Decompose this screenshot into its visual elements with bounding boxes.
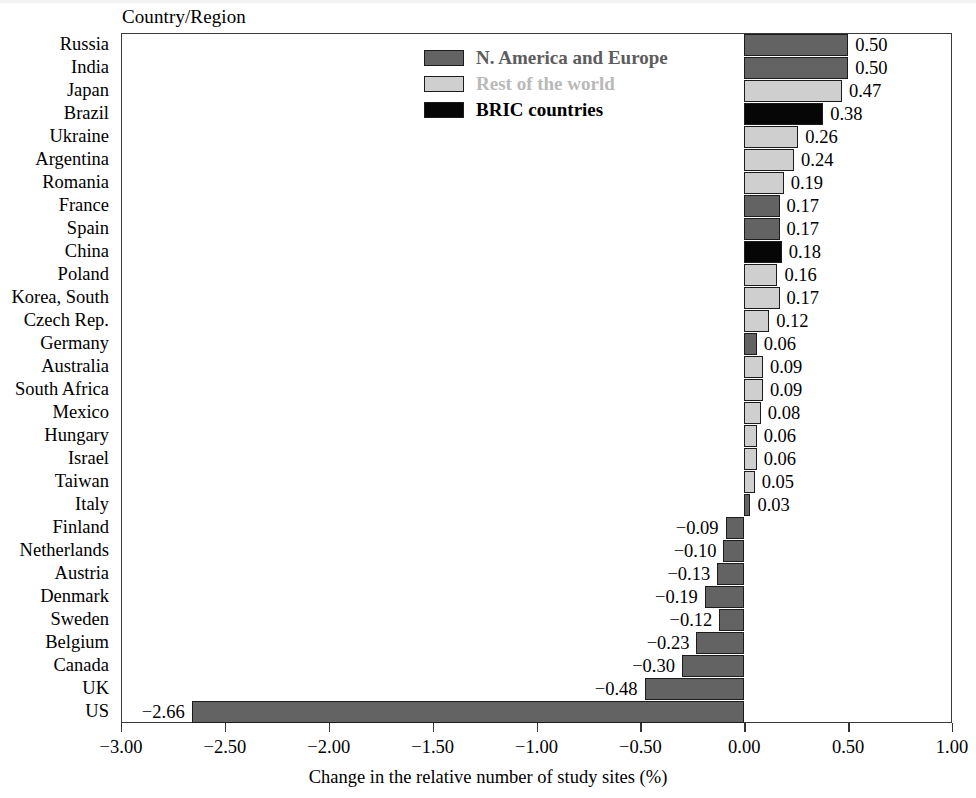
legend-item: N. America and Europe [424,45,724,71]
category-label: Italy [0,494,115,514]
x-tick-mark [952,723,953,732]
category-label: US [0,701,115,721]
legend-label: Rest of the world [476,73,615,95]
category-label: Denmark [0,586,115,606]
x-tick-mark [433,723,434,732]
category-label: France [0,195,115,215]
bar-row: 0.12 [121,309,952,332]
bar [744,448,756,470]
column-header-label: Country/Region [122,6,246,28]
bar [744,241,781,263]
bar-row: 0.19 [121,171,952,194]
bar-value-label: −0.48 [595,678,638,700]
bar-row: 0.06 [121,332,952,355]
legend-swatch-light [424,76,464,92]
category-label: Poland [0,264,115,284]
bar-row: −0.12 [121,608,952,631]
category-label: Mexico [0,402,115,422]
x-tick-label: −1.00 [515,736,558,758]
bar-value-label: −0.23 [647,632,690,654]
bar-row: 0.16 [121,263,952,286]
bar-value-label: 0.17 [787,218,819,240]
bar-value-label: 0.18 [789,241,821,263]
x-tick-mark [225,723,226,732]
bar-value-label: −0.19 [655,586,698,608]
bar-value-label: −0.12 [670,609,713,631]
category-label: Romania [0,172,115,192]
bar [744,310,769,332]
x-tick-label: 0.00 [728,736,760,758]
category-label: Argentina [0,149,115,169]
x-tick-label: 1.00 [936,736,968,758]
x-tick-label: 0.50 [832,736,864,758]
bar [726,517,745,539]
x-tick-label: −3.00 [100,736,143,758]
category-label: Netherlands [0,540,115,560]
bar [744,195,779,217]
category-label: Russia [0,34,115,54]
x-tick-mark [329,723,330,732]
bar-row: 0.26 [121,125,952,148]
bar-row: 0.18 [121,240,952,263]
bar-row: 0.03 [121,493,952,516]
x-tick-mark [744,723,745,732]
x-tick-mark [848,723,849,732]
bar [744,103,823,125]
bar [696,632,744,654]
bar [717,563,744,585]
bar-value-label: 0.06 [764,448,796,470]
bar-value-label: 0.12 [776,310,808,332]
chart-legend: N. America and EuropeRest of the worldBR… [424,45,724,123]
bar [744,494,750,516]
bar-row: −0.48 [121,677,952,700]
bar [645,678,745,700]
bar [744,149,794,171]
bar [719,609,744,631]
legend-swatch-black [424,102,464,118]
x-tick-label: −2.00 [307,736,350,758]
bar-row: −0.19 [121,585,952,608]
x-tick-mark [640,723,641,732]
category-label: Sweden [0,609,115,629]
bar-row: 0.08 [121,401,952,424]
legend-label: BRIC countries [476,99,603,121]
bar-row: 0.06 [121,424,952,447]
bar [744,172,783,194]
bar [744,402,761,424]
bar-value-label: 0.09 [770,379,802,401]
bar [192,701,745,723]
bar-row: 0.09 [121,378,952,401]
category-label: UK [0,678,115,698]
bar-value-label: 0.47 [849,80,881,102]
bar-row: 0.17 [121,217,952,240]
bar-value-label: −0.10 [674,540,717,562]
bar [723,540,744,562]
bar [682,655,744,677]
bar-row: 0.17 [121,194,952,217]
category-label: Australia [0,356,115,376]
scan-edge-tint [0,0,976,3]
category-label: Ukraine [0,126,115,146]
bar [744,471,754,493]
bar-row: −0.23 [121,631,952,654]
bar-value-label: 0.06 [764,333,796,355]
category-label: Belgium [0,632,115,652]
bar-row: −2.66 [121,700,952,723]
bar [744,80,842,102]
bar [744,264,777,286]
category-label: Korea, South [0,287,115,307]
bar-row: 0.09 [121,355,952,378]
category-label: Czech Rep. [0,310,115,330]
category-label: Brazil [0,103,115,123]
x-tick-label: −0.50 [619,736,662,758]
bar [744,218,779,240]
bar-value-label: −2.66 [142,701,185,723]
bar-value-label: 0.26 [805,126,837,148]
x-axis-ticks [121,723,952,735]
bar-value-label: 0.09 [770,356,802,378]
category-label: Finland [0,517,115,537]
bars-layer: 0.500.500.470.380.260.240.190.170.170.18… [121,33,952,723]
bar-value-label: 0.17 [787,195,819,217]
bar [744,57,848,79]
x-tick-label: −1.50 [411,736,454,758]
